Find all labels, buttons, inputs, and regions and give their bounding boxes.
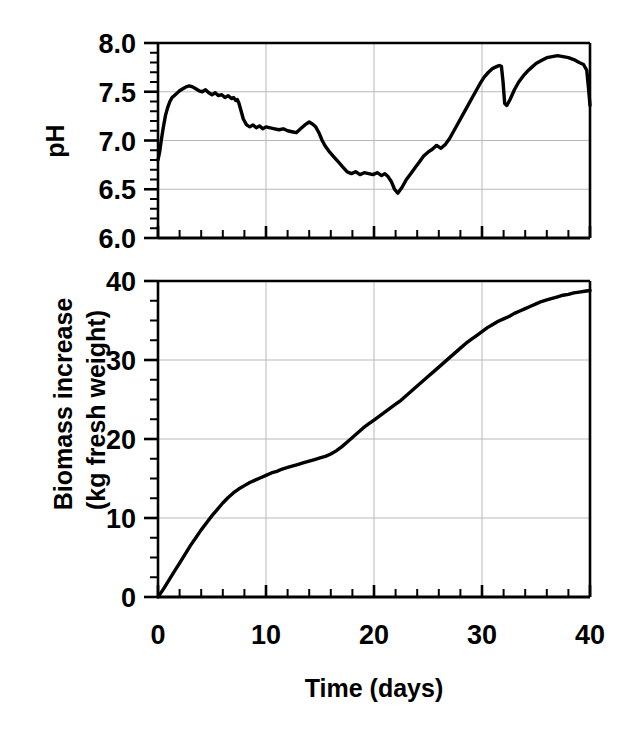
xtick-label: 30 <box>467 620 497 650</box>
biomass-axis-title-line2: (kg fresh weight) <box>82 310 110 510</box>
xtick-label: 20 <box>359 620 389 650</box>
xtick-label: 10 <box>251 620 281 650</box>
chart-svg: 8.07.57.06.56.0 pH 403020100 010203040 B… <box>0 0 633 735</box>
xtick-label: 40 <box>575 620 605 650</box>
xtick-label: 0 <box>150 620 165 650</box>
ytick-label: 8.0 <box>98 29 136 59</box>
x-axis-title: Time (days) <box>305 674 443 702</box>
ytick-label: 20 <box>106 425 136 455</box>
ytick-label: 6.0 <box>98 224 136 254</box>
ytick-label: 10 <box>106 504 136 534</box>
ytick-label: 40 <box>106 267 136 297</box>
ytick-label: 30 <box>106 346 136 376</box>
ytick-label: 6.5 <box>98 175 136 205</box>
biomass-axis-title-line1: Biomass increase <box>49 298 77 511</box>
ytick-label: 7.0 <box>98 127 136 157</box>
ytick-label: 0 <box>121 583 136 613</box>
figure-container: 8.07.57.06.56.0 pH 403020100 010203040 B… <box>0 0 633 735</box>
ph-axis-title: pH <box>41 124 69 157</box>
ytick-label: 7.5 <box>98 78 136 108</box>
